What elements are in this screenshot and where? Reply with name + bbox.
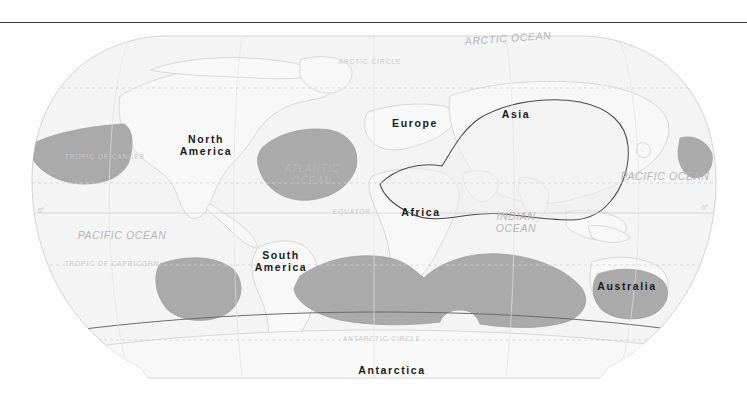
world-map: North America South America Europe Afric…	[0, 26, 747, 382]
page-top-rule	[0, 22, 747, 23]
world-map-graphic	[0, 26, 747, 382]
page-canvas: North America South America Europe Afric…	[0, 0, 747, 407]
shaded-region-australia	[593, 269, 667, 319]
